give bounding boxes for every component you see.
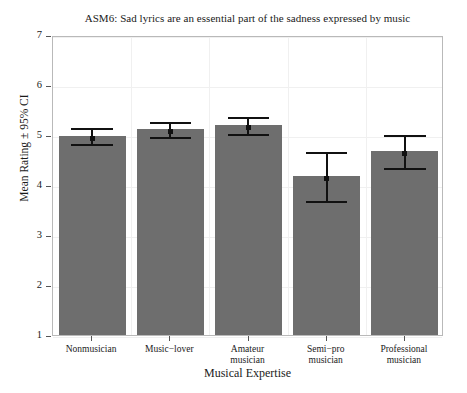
error-bar-cap-lower <box>71 144 112 146</box>
error-bar-cap-upper <box>228 117 269 119</box>
bar[interactable] <box>59 136 126 335</box>
plot-area <box>52 36 443 336</box>
error-bar <box>215 117 282 136</box>
mean-marker <box>324 176 329 181</box>
y-tick-mark <box>46 286 51 287</box>
bar[interactable] <box>371 151 438 335</box>
error-bar-cap-lower <box>228 134 269 136</box>
mean-marker <box>402 151 407 156</box>
x-tick-label: Amateurmusician <box>208 344 286 366</box>
error-bar <box>293 152 360 203</box>
x-tick-label-line: musician <box>287 355 365 366</box>
gridline-horizontal <box>53 87 442 88</box>
x-tick-label: Professionalmusician <box>365 344 443 366</box>
y-tick-mark <box>46 36 51 37</box>
error-bar-cap-upper <box>150 122 191 124</box>
y-tick-label: 2 <box>26 280 42 291</box>
chart-container: ASM6: Sad lyrics are an essential part o… <box>0 0 467 393</box>
x-tick-label: Music−lover <box>130 344 208 355</box>
x-tick-label-line: Professional <box>365 344 443 355</box>
error-bar-cap-upper <box>306 152 347 154</box>
chart-title: ASM6: Sad lyrics are an essential part o… <box>52 12 443 24</box>
y-tick-mark <box>46 186 51 187</box>
y-axis-label: Mean Rating ± 95% CI <box>18 38 30 258</box>
error-bar-cap-upper <box>71 128 112 130</box>
x-tick-label-line: musician <box>365 355 443 366</box>
gridline-vertical <box>209 37 210 335</box>
error-bar-cap-upper <box>384 135 425 137</box>
x-tick-mark <box>169 336 170 341</box>
error-bar <box>59 128 126 146</box>
error-bar-cap-lower <box>384 168 425 170</box>
y-tick-mark <box>46 136 51 137</box>
bar[interactable] <box>215 125 282 335</box>
error-bar-cap-lower <box>150 137 191 139</box>
x-tick-mark <box>91 336 92 341</box>
error-bar <box>137 122 204 139</box>
gridline-vertical <box>131 37 132 335</box>
mean-marker <box>168 129 173 134</box>
gridline-vertical <box>366 37 367 335</box>
x-tick-mark <box>404 336 405 341</box>
x-axis-label: Musical Expertise <box>52 366 443 381</box>
x-tick-label-line: Nonmusician <box>52 344 130 355</box>
x-tick-label-line: Amateur <box>208 344 286 355</box>
gridline-vertical <box>288 37 289 335</box>
y-tick-label: 1 <box>26 330 42 341</box>
x-tick-label: Nonmusician <box>52 344 130 355</box>
y-tick-mark <box>46 86 51 87</box>
x-tick-mark <box>248 336 249 341</box>
mean-marker <box>246 125 251 130</box>
x-tick-label: Semi−promusician <box>287 344 365 366</box>
x-tick-label-line: musician <box>208 355 286 366</box>
y-tick-mark <box>46 336 51 337</box>
x-tick-label-line: Semi−pro <box>287 344 365 355</box>
bar[interactable] <box>137 129 204 335</box>
gridline-horizontal <box>53 37 442 38</box>
y-tick-mark <box>46 236 51 237</box>
error-bar <box>371 135 438 170</box>
mean-marker <box>90 136 95 141</box>
x-tick-label-line: Music−lover <box>130 344 208 355</box>
error-bar-cap-lower <box>306 201 347 203</box>
x-tick-mark <box>326 336 327 341</box>
